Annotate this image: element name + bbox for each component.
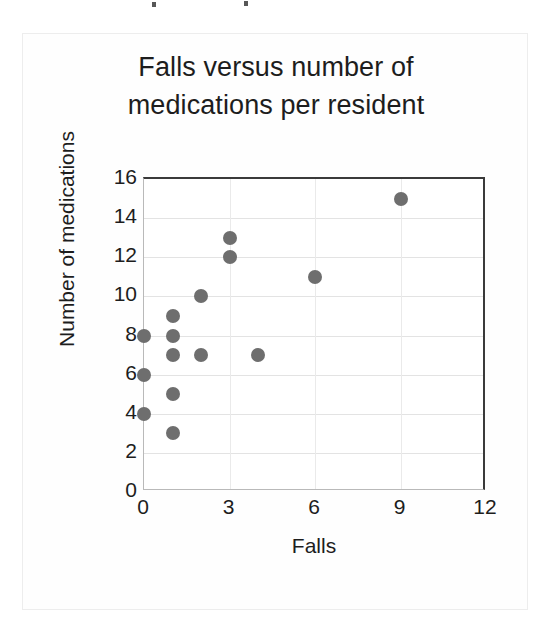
data-point xyxy=(194,348,208,362)
x-axis-label: Falls xyxy=(143,534,485,558)
x-axis-tick-label: 9 xyxy=(375,496,425,517)
gridline-horizontal xyxy=(144,257,483,258)
data-point xyxy=(166,309,180,323)
y-axis-tick-label: 2 xyxy=(91,440,137,461)
data-point xyxy=(166,387,180,401)
x-axis-tick-label: 12 xyxy=(460,496,510,517)
data-point xyxy=(137,329,151,343)
data-point xyxy=(137,368,151,382)
scan-artifact xyxy=(152,2,156,7)
y-axis-tick-label: 10 xyxy=(91,283,137,304)
gridline-horizontal xyxy=(144,218,483,219)
y-axis-tick-label: 4 xyxy=(91,401,137,422)
gridline-horizontal xyxy=(144,414,483,415)
y-axis-tick-label: 16 xyxy=(91,166,137,187)
data-point xyxy=(194,289,208,303)
y-axis-tick-label: 6 xyxy=(91,362,137,383)
y-axis-tick-label: 8 xyxy=(91,323,137,344)
chart-title: Falls versus number of medications per r… xyxy=(23,48,529,124)
y-axis-tick-label: 14 xyxy=(91,205,137,226)
chart-title-line-2: medications per resident xyxy=(23,86,529,124)
x-axis-tick-labels: 036912 xyxy=(143,496,485,526)
data-point xyxy=(223,231,237,245)
gridline-horizontal xyxy=(144,375,483,376)
gridline-horizontal xyxy=(144,336,483,337)
data-point xyxy=(166,329,180,343)
gridline-vertical xyxy=(401,179,402,489)
gridline-vertical xyxy=(230,179,231,489)
data-point xyxy=(308,270,322,284)
gridline-vertical xyxy=(315,179,316,489)
data-point xyxy=(223,250,237,264)
y-axis-tick-labels: 0246810121416 xyxy=(87,177,137,490)
x-axis-tick-label: 0 xyxy=(118,496,168,517)
data-point xyxy=(137,407,151,421)
plot-area xyxy=(143,177,485,490)
gridline-horizontal xyxy=(144,453,483,454)
data-point xyxy=(394,192,408,206)
chart-title-line-1: Falls versus number of xyxy=(23,48,529,86)
x-axis-tick-label: 6 xyxy=(289,496,339,517)
scan-artifact xyxy=(244,1,248,6)
data-point xyxy=(251,348,265,362)
y-axis-tick-label: 12 xyxy=(91,244,137,265)
chart-card: Falls versus number of medications per r… xyxy=(22,33,528,610)
x-axis-tick-label: 3 xyxy=(204,496,254,517)
data-point xyxy=(166,426,180,440)
y-axis-label: Number of medications xyxy=(55,99,79,379)
data-point xyxy=(166,348,180,362)
scan-artifacts xyxy=(0,0,542,30)
